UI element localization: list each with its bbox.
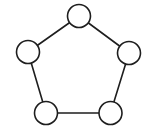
edges-group xyxy=(28,16,129,113)
pentagon-graph-diagram xyxy=(0,0,148,131)
node-bottom-right xyxy=(99,102,122,125)
node-top xyxy=(68,5,91,28)
node-right xyxy=(118,42,141,65)
node-left xyxy=(17,41,40,64)
nodes-group xyxy=(17,5,141,125)
node-bottom-left xyxy=(35,102,58,125)
